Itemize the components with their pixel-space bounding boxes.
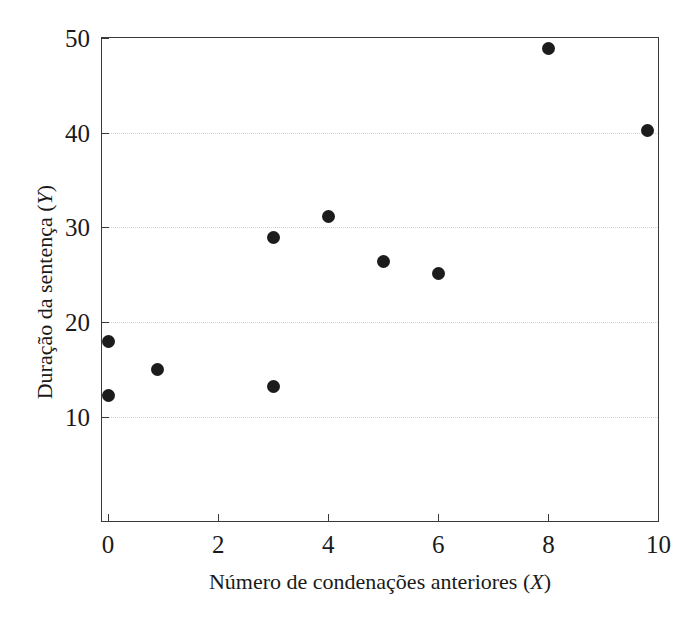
y-gridline: [102, 133, 658, 134]
data-point: [267, 380, 280, 393]
data-point: [267, 231, 280, 244]
x-axis-tick: [108, 514, 109, 521]
y-gridline: [102, 417, 658, 418]
plot-area: 10203040500246810: [101, 37, 659, 522]
data-point: [102, 389, 115, 402]
y-axis-tick: [102, 227, 109, 228]
y-axis-tick-label: 30: [65, 215, 90, 240]
y-axis-title-paren-close: ): [32, 185, 57, 192]
y-axis-title-paren-open: (: [32, 204, 57, 217]
x-axis-tick-label: 10: [646, 532, 671, 557]
x-axis-tick: [218, 514, 219, 521]
x-axis-tick: [548, 514, 549, 521]
y-gridline: [102, 322, 658, 323]
x-axis-tick-label: 8: [542, 532, 555, 557]
x-axis-tick-label: 0: [102, 532, 115, 557]
x-axis-title: Número de condenações anteriores (X): [101, 570, 659, 594]
scatter-plot-figure: 10203040500246810 Número de condenações …: [0, 0, 700, 624]
data-point: [102, 335, 115, 348]
x-axis-title-paren-open: (: [517, 569, 530, 594]
data-point: [322, 210, 335, 223]
data-point: [432, 267, 445, 280]
x-axis-variable: X: [530, 569, 543, 594]
y-axis-tick-label: 10: [65, 404, 90, 429]
data-point: [641, 124, 654, 137]
x-axis-tick-label: 6: [432, 532, 445, 557]
y-axis-tick: [102, 417, 109, 418]
y-gridline: [102, 227, 658, 228]
x-axis-tick: [328, 514, 329, 521]
data-point: [151, 363, 164, 376]
x-axis-tick-label: 2: [212, 532, 225, 557]
y-axis-tick: [102, 322, 109, 323]
x-axis-tick-label: 4: [322, 532, 335, 557]
x-axis-title-paren-close: ): [544, 569, 551, 594]
y-axis-tick: [102, 133, 109, 134]
x-axis-tick: [438, 514, 439, 521]
y-axis-variable: Y: [32, 192, 57, 204]
y-axis-tick-label: 20: [65, 310, 90, 335]
data-point: [377, 255, 390, 268]
data-point: [542, 42, 555, 55]
y-axis-tick-label: 50: [65, 26, 90, 51]
y-axis-tick: [102, 38, 109, 39]
y-axis-title: Duração da sentença (Y): [33, 49, 57, 535]
x-axis-title-text: Número de condenações anteriores: [209, 569, 517, 594]
y-axis-tick-label: 40: [65, 120, 90, 145]
y-axis-title-text: Duração da sentença: [32, 217, 57, 399]
